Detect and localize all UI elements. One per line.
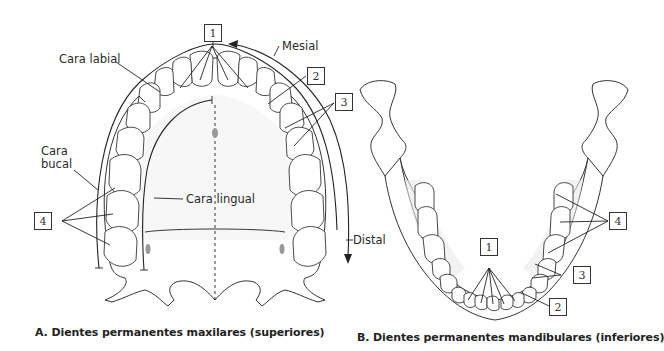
caption-panel-a: A. Dientes permanentes maxilares (superi… [35,326,325,339]
label-distal: Distal [353,234,386,247]
callout-a-1-incisors: 1 [204,24,222,42]
label-cara-labial: Cara labial [59,53,121,66]
label-cara-lingual: Cara lingual [186,193,255,206]
mandibular-arch [360,81,628,320]
callout-b-4-molars: 4 [609,212,627,230]
callout-a-4-molars: 4 [34,212,52,230]
callout-b-1-incisors: 1 [480,238,498,256]
callout-a-3-premolars: 3 [335,93,353,111]
label-mesial: Mesial [282,40,318,53]
callout-b-2-canine: 2 [549,298,567,316]
caption-panel-b: B. Dientes permanentes mandibulares (inf… [357,331,664,344]
label-cara-bucal-line2: bucal [41,158,72,171]
callout-a-2-canine: 2 [307,67,325,85]
callout-b-3-premolars: 3 [573,266,591,284]
